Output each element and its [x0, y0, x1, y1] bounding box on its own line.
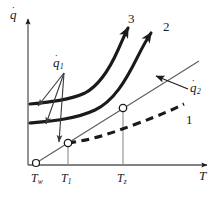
x-tick-tw-base: T [31, 171, 38, 185]
x-tick-t1-base: T [61, 171, 68, 185]
qdot1-sub: 1 [60, 62, 64, 71]
x-tick-label-tw: Tw [31, 172, 43, 186]
curve-2 [30, 33, 151, 123]
qdot1-arrow-to-curve1 [59, 73, 64, 142]
marker-tw [33, 160, 40, 167]
heat-removal-line [36, 61, 199, 163]
qdot2-sub: 2 [197, 87, 201, 96]
qdot2-dot-accent: ˙ [191, 78, 195, 89]
curve-3-label: 3 [128, 12, 135, 25]
x-tick-tw-sub: w [38, 177, 43, 186]
marker-t1 [64, 139, 71, 146]
marker-tz [119, 104, 126, 111]
semenov-diagram: ˙q T Tw T1 Tz ˙q1 ˙q2 3 2 1 [0, 0, 221, 197]
x-tick-label-t1: T1 [61, 172, 72, 186]
x-tick-t1-sub: 1 [68, 177, 72, 186]
x-tick-tz-base: T [117, 171, 124, 185]
curve-2-label: 2 [163, 20, 170, 33]
qdot2-label: ˙q2 [190, 81, 201, 96]
qdot1-dot-accent: ˙ [54, 53, 58, 64]
x-axis-label: T [199, 169, 206, 182]
x-tick-label-tz: Tz [117, 172, 127, 186]
y-axis-dot-accent: ˙ [11, 5, 15, 16]
diagram-canvas [0, 0, 221, 197]
qdot1-arrow-cluster [38, 73, 64, 142]
qdot1-label: ˙q1 [53, 56, 64, 71]
x-tick-tz-sub: z [124, 177, 127, 186]
curve-1-label: 1 [186, 113, 193, 126]
curve-3 [30, 28, 128, 104]
y-axis-label: ˙q [10, 8, 17, 21]
